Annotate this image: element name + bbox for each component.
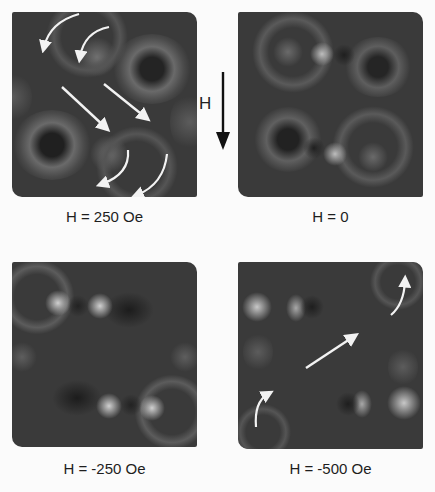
curved-arrow-icon bbox=[256, 394, 268, 427]
dark-core bbox=[333, 44, 355, 66]
straight-arrow-icon bbox=[62, 87, 105, 127]
curved-arrow-icon bbox=[137, 154, 167, 195]
panel-caption: H = 250 Oe bbox=[12, 208, 197, 225]
curved-arrow-icon bbox=[44, 14, 79, 47]
panel-caption: H = -500 Oe bbox=[238, 460, 423, 477]
edge-glow bbox=[170, 342, 197, 372]
mfm-panel-h-250 bbox=[12, 12, 197, 197]
dark-domain bbox=[52, 380, 102, 416]
domain-blob bbox=[273, 37, 303, 67]
panel-caption: H = -250 Oe bbox=[12, 460, 197, 477]
mfm-panel-h-minus-500 bbox=[238, 262, 423, 449]
mfm-panel-h-0 bbox=[238, 12, 423, 197]
dark-core bbox=[303, 137, 325, 159]
field-label: H bbox=[199, 94, 211, 114]
vortex-core bbox=[45, 290, 71, 316]
vortex-core bbox=[310, 42, 334, 66]
domain-blob bbox=[358, 142, 388, 172]
edge-glow bbox=[12, 342, 37, 372]
domain-ring bbox=[343, 37, 413, 97]
magnetization-arrows bbox=[12, 12, 197, 197]
vortex-core bbox=[323, 142, 347, 166]
curved-arrow-icon bbox=[391, 281, 405, 315]
straight-arrow-icon bbox=[104, 84, 145, 117]
panel-caption: H = 0 bbox=[238, 208, 423, 225]
curved-arrow-icon bbox=[102, 150, 128, 184]
curved-arrow-icon bbox=[80, 27, 109, 57]
mfm-panel-h-minus-250 bbox=[12, 262, 197, 447]
straight-arrow-icon bbox=[306, 337, 353, 368]
vortex-core bbox=[87, 293, 113, 319]
magnetization-arrows bbox=[238, 262, 423, 447]
vortex-core bbox=[96, 393, 122, 419]
vortex-core bbox=[139, 395, 165, 421]
